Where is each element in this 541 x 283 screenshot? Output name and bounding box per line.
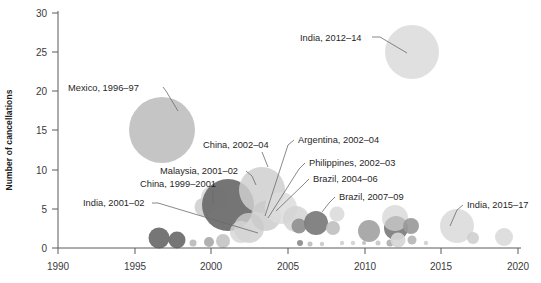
bubble [230,221,252,243]
bubble [408,236,417,245]
annotation-label-philippines: Philippines, 2002–03 [309,158,395,168]
annotation-label-argentina: Argentina, 2002–04 [298,135,379,145]
bubble [391,233,406,248]
y-tick-label: 5 [41,204,47,215]
bubble [351,241,355,245]
annotation-label-india-2001: India, 2001–02 [83,198,145,208]
x-tick-label: 2010 [354,261,377,272]
bubble [297,240,303,246]
annotation-label-india-2015: India, 2015–17 [467,200,529,210]
bubble [216,234,230,248]
y-tick-label: 0 [41,243,47,254]
bubble [385,25,439,79]
bubble [149,228,170,249]
bubble [204,237,214,247]
bubble [403,218,419,234]
x-tick-label: 2000 [200,261,223,272]
bubble [304,211,328,235]
bubble [340,241,344,245]
bubble [362,241,366,245]
bubble [424,241,428,245]
x-tick-label: 1995 [124,261,147,272]
bubble-chart: 302520151050 199019952000200520102015202… [0,0,541,283]
bubble [190,240,197,247]
x-tick-label: 1990 [47,261,70,272]
annotation-label-mexico: Mexico, 1996–97 [68,83,139,93]
bubble [320,242,324,246]
bubble [326,221,340,235]
x-tick-layer: 1990199520002005201020152020 [47,248,530,272]
annotation-label-brazil-2007: Brazil, 2007–09 [339,192,404,202]
y-tick-layer: 302520151050 [36,8,58,254]
y-tick-label: 25 [36,47,48,58]
annotation-label-china-2002: China, 2002–04 [203,140,269,150]
y-axis-title: Number of cancellations [4,89,14,190]
bubble [169,232,186,249]
x-tick-label: 2020 [507,261,530,272]
y-tick-label: 15 [36,125,48,136]
bubble [129,97,195,163]
annotation-label-malaysia: Malaysia, 2001–02 [160,166,238,176]
bubble [467,232,479,244]
bubble [358,220,380,242]
leader-line-china-2002 [262,152,268,167]
annotation-label-india-2012: India, 2012–14 [300,33,362,43]
bubble [330,207,345,222]
y-tick-label: 30 [36,8,48,19]
annotation-label-brazil-2004: Brazil, 2004–06 [313,174,378,184]
bubble [376,241,381,246]
annotation-label-china-1999: China, 1999–2001 [140,179,216,189]
y-tick-label: 10 [36,165,48,176]
bubble [495,228,513,246]
x-tick-label: 2015 [430,261,453,272]
x-tick-label: 2005 [277,261,300,272]
chart-canvas: 302520151050 199019952000200520102015202… [0,0,541,283]
y-tick-label: 20 [36,86,48,97]
bubble [308,242,313,247]
